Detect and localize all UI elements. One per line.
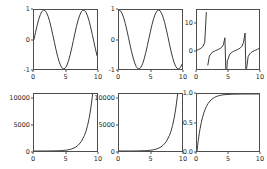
axes-cosine: [118, 9, 183, 70]
y-tick-label: 0: [26, 149, 30, 156]
data-curve: [119, 94, 182, 151]
x-tick-label: 0: [31, 74, 35, 81]
x-tick-mark: [65, 152, 66, 154]
x-tick-label: 10: [94, 156, 102, 163]
x-tick-label: 5: [226, 74, 230, 81]
y-tick-mark: [116, 125, 118, 126]
y-tick-label: 0: [111, 36, 115, 43]
subplot-saturating: 0.00.51.00510: [196, 93, 260, 152]
y-tick-label: -1: [109, 67, 115, 74]
x-tick-mark: [118, 70, 119, 72]
matplotlib-figure: -1010510-1010510010051005000100000510050…: [0, 0, 267, 169]
x-tick-label: 5: [148, 156, 152, 163]
y-tick-mark: [116, 9, 118, 10]
x-tick-mark: [228, 70, 229, 72]
y-tick-label: 10000: [94, 95, 115, 102]
x-tick-mark: [196, 152, 197, 154]
data-curve: [197, 12, 259, 69]
y-tick-label: 0.5: [183, 119, 193, 126]
subplot-tangent: 0100510: [196, 9, 260, 70]
x-tick-mark: [150, 152, 151, 154]
y-tick-mark: [116, 98, 118, 99]
x-tick-mark: [260, 70, 261, 72]
x-tick-label: 0: [116, 156, 120, 163]
y-tick-label: 0: [111, 149, 115, 156]
data-curve: [34, 94, 97, 151]
x-tick-mark: [228, 152, 229, 154]
axes-exponential-middle: [118, 93, 183, 152]
x-tick-label: 5: [63, 156, 67, 163]
x-tick-label: 10: [256, 156, 264, 163]
axes-tangent: [196, 9, 260, 70]
x-tick-mark: [118, 152, 119, 154]
x-tick-mark: [150, 70, 151, 72]
y-tick-label: 0: [26, 36, 30, 43]
y-tick-label: -1: [24, 67, 30, 74]
x-tick-label: 5: [63, 74, 67, 81]
y-tick-label: 1.0: [183, 90, 193, 97]
subplot-sine: -1010510: [33, 9, 98, 70]
x-tick-mark: [33, 152, 34, 154]
y-tick-label: 10000: [9, 95, 30, 102]
x-tick-label: 0: [194, 74, 198, 81]
y-tick-label: 0.0: [183, 149, 193, 156]
y-tick-label: 5000: [98, 122, 115, 129]
x-tick-label: 0: [194, 156, 198, 163]
axes-sine: [33, 9, 98, 70]
axes-saturating: [196, 93, 260, 152]
x-tick-label: 0: [31, 156, 35, 163]
x-tick-mark: [260, 152, 261, 154]
x-tick-label: 5: [226, 156, 230, 163]
x-tick-label: 10: [94, 74, 102, 81]
y-tick-label: 1: [26, 6, 30, 13]
x-tick-label: 10: [179, 74, 187, 81]
y-tick-mark: [116, 39, 118, 40]
y-tick-label: 1: [111, 6, 115, 13]
y-tick-mark: [31, 125, 33, 126]
y-tick-label: 0: [189, 47, 193, 54]
x-tick-label: 10: [256, 74, 264, 81]
y-tick-mark: [194, 122, 196, 123]
data-curve: [34, 10, 97, 69]
x-tick-label: 0: [116, 74, 120, 81]
y-tick-mark: [194, 22, 196, 23]
y-tick-mark: [31, 98, 33, 99]
y-tick-mark: [194, 93, 196, 94]
subplot-cosine: -1010510: [118, 9, 183, 70]
x-tick-mark: [196, 70, 197, 72]
axes-exponential-left: [33, 93, 98, 152]
x-tick-mark: [98, 152, 99, 154]
x-tick-mark: [33, 70, 34, 72]
y-tick-label: 10: [185, 20, 193, 27]
data-curve: [197, 94, 259, 151]
x-tick-mark: [183, 70, 184, 72]
subplot-exponential-left: 05000100000510: [33, 93, 98, 152]
x-tick-mark: [98, 70, 99, 72]
y-tick-label: 5000: [13, 122, 30, 129]
data-curve: [119, 10, 182, 69]
y-tick-mark: [31, 39, 33, 40]
subplot-exponential-middle: 05000100000510: [118, 93, 183, 152]
y-tick-mark: [194, 50, 196, 51]
y-tick-mark: [31, 9, 33, 10]
x-tick-label: 10: [179, 156, 187, 163]
x-tick-mark: [65, 70, 66, 72]
x-tick-label: 5: [148, 74, 152, 81]
